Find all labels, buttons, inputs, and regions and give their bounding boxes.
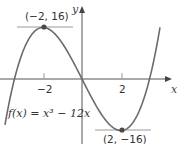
tick-label-pos2: 2 <box>119 83 126 95</box>
local-min-point <box>119 127 124 132</box>
y-axis-label: y <box>71 3 79 16</box>
x-axis-arrow-icon <box>165 76 172 82</box>
y-axis-arrow-icon <box>79 6 85 13</box>
max-point-label: (−2, 16) <box>25 10 69 22</box>
function-graph: x y −2 2 (−2, 16) (2, −16) f(x) = x³ − 1… <box>0 0 183 144</box>
function-label: f(x) = x³ − 12x <box>7 107 91 120</box>
x-axis-label: x <box>171 83 178 96</box>
local-max-point <box>41 24 46 29</box>
tick-label-neg2: −2 <box>37 83 52 95</box>
min-point-label: (2, −16) <box>103 133 147 144</box>
